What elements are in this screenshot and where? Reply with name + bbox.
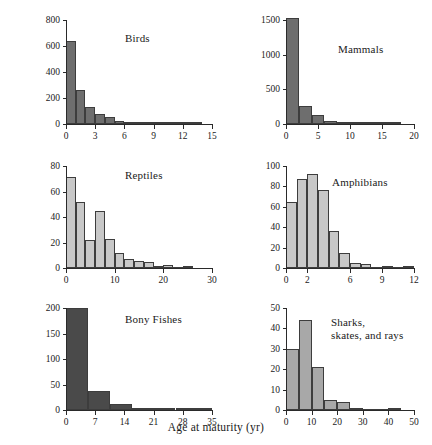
x-tick-label: 15	[197, 131, 227, 141]
y-tick-label: 50	[26, 380, 60, 390]
y-tick-label: 200	[26, 303, 60, 313]
y-tick	[63, 192, 66, 193]
x-tick-label: 10	[100, 275, 130, 285]
bar	[337, 402, 350, 410]
bar	[286, 349, 299, 410]
y-tick-label: 40	[246, 222, 280, 232]
y-tick-label: 0	[246, 119, 280, 129]
bar	[134, 261, 144, 268]
y-axis-line	[66, 308, 67, 410]
y-tick	[283, 186, 286, 187]
panel-mammals: Mammals 05001000150005101520	[246, 14, 422, 144]
y-tick	[63, 166, 66, 167]
x-tick	[212, 411, 213, 415]
x-tick-label: 20	[399, 131, 429, 141]
y-tick-label: 80	[246, 181, 280, 191]
y-tick-label: 1500	[246, 15, 280, 25]
x-tick-label: 6	[335, 275, 365, 285]
y-tick-label: 150	[26, 329, 60, 339]
x-tick	[66, 411, 67, 415]
y-tick	[63, 359, 66, 360]
panel-birds: Birds 020040060080003691215	[30, 14, 216, 144]
bar	[324, 400, 337, 410]
x-tick-label: 0	[51, 131, 81, 141]
bar	[339, 253, 350, 268]
bar	[105, 239, 115, 268]
x-tick	[212, 125, 213, 129]
bar	[66, 308, 88, 410]
x-tick	[183, 125, 184, 129]
x-axis-line	[66, 268, 213, 269]
bar	[318, 190, 329, 268]
y-tick	[63, 308, 66, 309]
y-tick	[63, 334, 66, 335]
y-tick	[283, 227, 286, 228]
x-tick	[286, 411, 287, 415]
y-tick-label: 30	[246, 344, 280, 354]
bar	[115, 253, 125, 268]
x-tick	[286, 269, 287, 273]
x-tick	[154, 411, 155, 415]
panel-sharks: Sharks, skates, and rays 010203040500102…	[246, 302, 422, 430]
bar	[124, 259, 134, 268]
x-tick-label: 35	[197, 417, 227, 427]
x-tick-label: 3	[80, 131, 110, 141]
bar	[286, 18, 299, 124]
x-tick	[66, 125, 67, 129]
plot-area-sharks: 0102030405001020304050	[286, 308, 414, 410]
figure-histogram-grid: Number of species Age at maturity (yr) B…	[0, 0, 432, 445]
y-tick	[283, 349, 286, 350]
bar	[95, 211, 105, 268]
y-tick	[283, 55, 286, 56]
y-tick-label: 0	[26, 405, 60, 415]
bar	[297, 179, 308, 268]
bar	[76, 90, 86, 124]
bar	[88, 391, 110, 410]
y-axis-line	[286, 308, 287, 410]
x-tick	[337, 411, 338, 415]
x-tick	[212, 269, 213, 273]
panel-bony-fishes: Bony Fishes 0501001502000714212835	[30, 302, 216, 430]
x-tick-label: 28	[168, 417, 198, 427]
bar	[105, 117, 115, 124]
bar	[286, 202, 297, 268]
x-tick	[154, 125, 155, 129]
y-axis-line	[66, 166, 67, 268]
x-tick-label: 21	[139, 417, 169, 427]
bar	[312, 367, 325, 410]
x-tick	[307, 269, 308, 273]
x-tick	[388, 411, 389, 415]
y-tick-label: 60	[26, 187, 60, 197]
x-tick-label: 20	[148, 275, 178, 285]
bar	[66, 41, 76, 124]
y-tick	[63, 72, 66, 73]
y-tick	[283, 248, 286, 249]
panel-reptiles: Reptiles 0204060800102030	[30, 160, 216, 288]
y-axis-line	[286, 20, 287, 124]
x-tick	[183, 411, 184, 415]
y-axis-line	[66, 20, 67, 124]
x-tick	[382, 125, 383, 129]
y-tick-label: 50	[246, 303, 280, 313]
x-tick-label: 10	[335, 131, 365, 141]
plot-area-reptiles: 0204060800102030	[66, 166, 212, 268]
plot-area-bony-fishes: 0501001502000714212835	[66, 308, 212, 410]
y-tick	[283, 207, 286, 208]
y-tick	[63, 243, 66, 244]
x-tick	[363, 411, 364, 415]
y-tick	[283, 166, 286, 167]
x-tick	[124, 411, 125, 415]
x-tick	[115, 269, 116, 273]
x-tick	[350, 125, 351, 129]
y-tick-label: 1000	[246, 50, 280, 60]
x-axis-line	[66, 410, 213, 411]
x-axis-line	[66, 124, 213, 125]
x-tick-label: 14	[109, 417, 139, 427]
x-tick-label: 30	[197, 275, 227, 285]
x-tick-label: 0	[51, 417, 81, 427]
x-tick	[124, 125, 125, 129]
y-tick	[283, 369, 286, 370]
x-tick-label: 12	[168, 131, 198, 141]
x-tick	[312, 411, 313, 415]
y-tick-label: 200	[26, 93, 60, 103]
